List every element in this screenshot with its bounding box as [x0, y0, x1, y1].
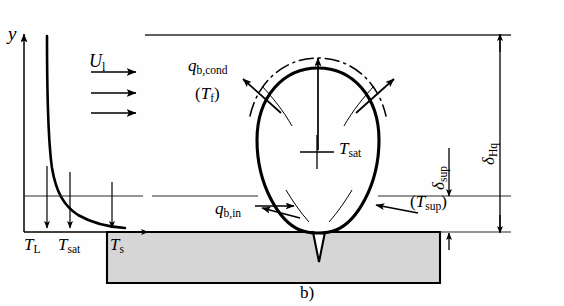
temperature-profile-curve: [47, 36, 125, 228]
heater-surface-with-cavity: [107, 232, 440, 283]
y-axis: [24, 34, 148, 232]
delta-sup-label: δsup: [430, 166, 447, 190]
heat-flux-label-conduction: qb,cond: [188, 57, 228, 74]
temperature-label-Ts: Ts: [110, 236, 124, 253]
superheat-layer-line-right: [152, 196, 511, 232]
temperature-label-Tsat: Tsat: [58, 236, 80, 253]
y-axis-label: y: [8, 24, 16, 43]
temperature-tick-arrows: [47, 166, 112, 228]
base-stroke-right: [329, 190, 352, 222]
superheat-temperature-label: (Tsup): [410, 193, 447, 210]
heat-flux-label-inflow: qb,in: [215, 200, 241, 217]
delta-Hq-label: δHq: [480, 143, 497, 165]
velocity-profile-arrows: [91, 72, 136, 113]
velocity-label: Ul: [89, 52, 105, 70]
interface-stroke-right: [344, 86, 374, 126]
temperature-label-TL: TL: [24, 236, 41, 253]
inflow-flux-arrows: [255, 190, 418, 222]
boiling-bubble-diagram: y Ul TL Tsat Ts qb,cond (Tf) qb,in (Tsup…: [0, 0, 564, 306]
heater-block: [107, 232, 440, 283]
interface-stroke-left: [262, 86, 292, 126]
figure-caption: b): [300, 283, 314, 303]
bubble-center-label: Tsat: [339, 140, 361, 157]
film-temperature-label: (Tf): [195, 85, 220, 102]
bubble-center-crosshair: [300, 135, 334, 169]
